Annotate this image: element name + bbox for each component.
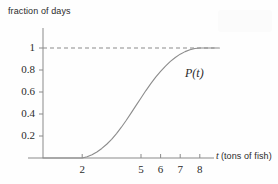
- series-curve-pt: [43, 48, 219, 158]
- y-tick-marks: [39, 48, 43, 136]
- y-tick-label: 0.2: [9, 129, 35, 141]
- x-tick-marks: [82, 154, 200, 158]
- x-tick-label: 8: [193, 163, 207, 175]
- plot-area: [0, 0, 278, 184]
- x-tick-label: 7: [173, 163, 187, 175]
- y-tick-label: 0.8: [9, 63, 35, 75]
- x-tick-label: 5: [134, 163, 148, 175]
- data-series-group: [43, 48, 219, 158]
- y-tick-label: 0.6: [9, 85, 35, 97]
- x-tick-label: 2: [75, 163, 89, 175]
- y-tick-label: 1: [9, 41, 35, 53]
- x-tick-label: 6: [154, 163, 168, 175]
- y-tick-label: 0.4: [9, 107, 35, 119]
- chart-figure: fraction of days t(tons of fish) P(t) 0.…: [0, 0, 278, 184]
